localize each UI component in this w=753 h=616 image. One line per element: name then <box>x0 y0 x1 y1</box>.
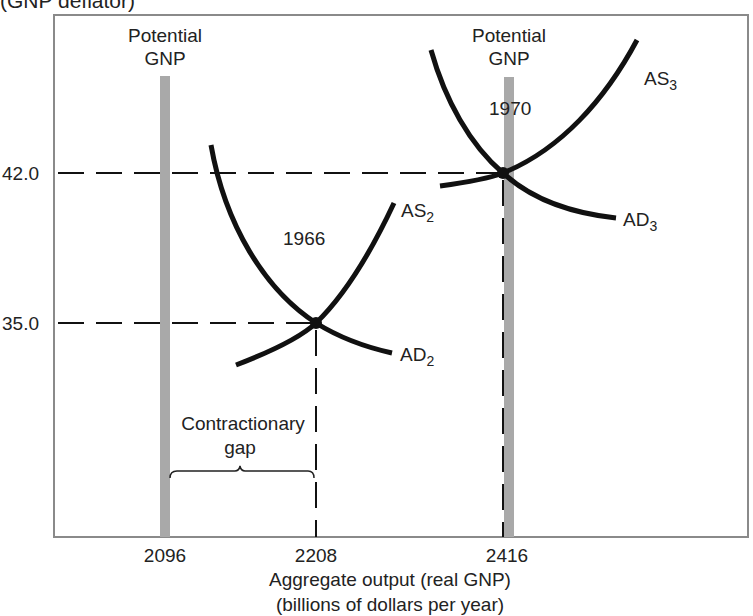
equilibrium-point-1966 <box>310 317 322 329</box>
potential-gnp-label-left-2: GNP <box>144 48 185 69</box>
ad3-label: AD3 <box>623 209 657 234</box>
contractionary-gap-label-1: Contractionary <box>181 413 305 434</box>
plot-frame <box>54 15 748 537</box>
ad3-curve <box>431 50 616 218</box>
as3-label: AS3 <box>644 68 677 93</box>
contractionary-gap-label-2: gap <box>224 437 256 458</box>
potential-gnp-label-left-1: Potential <box>128 25 202 46</box>
y-tick-42: 42.0 <box>2 163 39 184</box>
x-tick-2096: 2096 <box>144 545 186 566</box>
chart-canvas: (GNP deflator) Potential GNP Potential G… <box>0 0 753 616</box>
year-label-1966: 1966 <box>283 228 325 249</box>
guide-lines <box>58 173 503 537</box>
x-axis-label-line1: Aggregate output (real GNP) <box>269 569 511 590</box>
year-label-1970: 1970 <box>489 98 531 119</box>
as2-label: AS2 <box>401 200 434 225</box>
potential-gnp-label-right-1: Potential <box>472 25 546 46</box>
ad2-label: AD2 <box>400 344 434 369</box>
potential-gnp-bar-right <box>504 77 514 537</box>
x-tick-2416: 2416 <box>486 545 528 566</box>
contractionary-gap-brace <box>170 466 314 478</box>
x-tick-2208: 2208 <box>295 545 337 566</box>
ad2-curve <box>211 145 392 353</box>
equilibrium-point-1970 <box>497 167 509 179</box>
potential-gnp-label-right-2: GNP <box>488 48 529 69</box>
potential-gnp-bar-left <box>160 76 170 537</box>
y-axis-label: (GNP deflator) <box>0 0 135 12</box>
as3-curve <box>440 40 637 186</box>
x-axis-label-line2: (billions of dollars per year) <box>276 594 504 615</box>
y-tick-35: 35.0 <box>2 313 39 334</box>
